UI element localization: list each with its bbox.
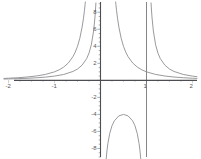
x-tick-label: 1 bbox=[143, 83, 153, 89]
y-tick-label: 2 bbox=[88, 60, 97, 66]
curve-b-right bbox=[151, 3, 197, 77]
curve-a-left bbox=[4, 2, 85, 78]
x-tick-label: -2 bbox=[6, 83, 16, 89]
x-tick-label: -1 bbox=[52, 83, 62, 89]
y-tick-label: 6 bbox=[88, 26, 97, 32]
plot-canvas bbox=[0, 0, 201, 159]
curve-b-middle bbox=[105, 114, 142, 159]
y-tick-label: 4 bbox=[88, 43, 97, 49]
y-tick-label: -6 bbox=[88, 128, 97, 134]
curve-a-right bbox=[116, 2, 197, 78]
y-tick-label: 8 bbox=[88, 9, 97, 15]
x-tick-label: 2 bbox=[189, 83, 199, 89]
axes bbox=[14, 2, 197, 157]
curve-b-left bbox=[4, 3, 96, 79]
y-tick-label: -4 bbox=[88, 111, 97, 117]
y-tick-label: -2 bbox=[88, 94, 97, 100]
function-graph: 8642-2-4-6-8-2-112 bbox=[0, 0, 201, 159]
y-tick-label: -8 bbox=[88, 145, 97, 151]
